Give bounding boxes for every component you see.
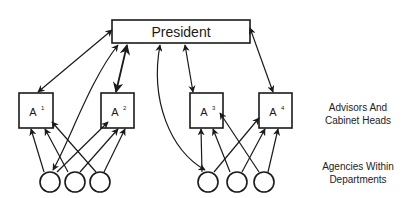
advisors-level-label: Advisors And Cabinet Heads xyxy=(318,101,398,127)
president-label: President xyxy=(151,24,210,40)
president-node: President xyxy=(112,20,250,43)
agency-advisor-links xyxy=(31,113,278,172)
agency-node xyxy=(254,172,274,192)
agency-node xyxy=(40,172,60,192)
advisor-node-a4: A 4 xyxy=(259,93,292,128)
agencies-label-line1: Agencies Within xyxy=(314,160,402,173)
agency-node xyxy=(198,172,218,192)
agency-node xyxy=(90,172,110,192)
svg-text:A: A xyxy=(200,106,208,118)
svg-text:A: A xyxy=(111,106,119,118)
agency-node xyxy=(227,172,247,192)
agencies-level-label: Agencies Within Departments xyxy=(314,160,402,186)
advisor-node-a3: A 3 xyxy=(190,93,223,128)
advisors-label-line1: Advisors And xyxy=(318,101,398,114)
advisors-label-line2: Cabinet Heads xyxy=(318,114,398,127)
agency-node xyxy=(65,172,85,192)
advisor-node-a2: A 2 xyxy=(101,93,134,128)
advisor-node-a1: A 1 xyxy=(19,93,53,128)
agencies-label-line2: Departments xyxy=(314,173,402,186)
svg-text:A: A xyxy=(269,106,277,118)
svg-text:A: A xyxy=(29,106,37,118)
agency-nodes xyxy=(40,172,274,192)
president-advisor-links xyxy=(38,28,273,170)
